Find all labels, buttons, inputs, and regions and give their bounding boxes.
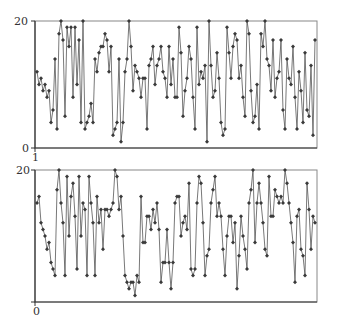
data-point-diamond-icon	[311, 214, 315, 218]
data-point-diamond-icon	[275, 194, 279, 198]
data-point-diamond-icon	[109, 44, 113, 48]
data-point-diamond-icon	[213, 175, 217, 179]
data-point-diamond-icon	[53, 274, 57, 278]
data-point-diamond-icon	[65, 175, 69, 179]
data-point-diamond-icon	[209, 201, 213, 205]
data-point-diamond-icon	[89, 102, 93, 106]
data-point-diamond-icon	[111, 133, 115, 137]
data-point-diamond-icon	[91, 121, 95, 125]
data-point-diamond-icon	[67, 44, 71, 48]
data-point-diamond-icon	[173, 201, 177, 205]
data-point-diamond-icon	[115, 121, 119, 125]
data-point-diamond-icon	[195, 25, 199, 29]
data-point-diamond-icon	[309, 247, 313, 251]
data-point-diamond-icon	[133, 293, 137, 297]
data-point-diamond-icon	[171, 57, 175, 61]
data-point-diamond-icon	[245, 19, 249, 23]
data-point-diamond-icon	[297, 70, 301, 74]
data-point-diamond-icon	[205, 254, 209, 258]
data-point-diamond-icon	[215, 51, 219, 55]
data-point-diamond-icon	[155, 201, 159, 205]
data-point-diamond-icon	[239, 214, 243, 218]
data-point-diamond-icon	[303, 274, 307, 278]
data-point-diamond-icon	[185, 227, 189, 231]
data-line	[37, 170, 315, 295]
data-point-diamond-icon	[249, 89, 253, 93]
data-point-diamond-icon	[139, 95, 143, 99]
data-point-diamond-icon	[169, 83, 173, 87]
data-point-diamond-icon	[253, 114, 257, 118]
data-point-diamond-icon	[275, 76, 279, 80]
bottom-chart-plot	[0, 160, 337, 328]
data-point-diamond-icon	[157, 227, 161, 231]
data-point-diamond-icon	[123, 274, 127, 278]
data-point-diamond-icon	[85, 274, 89, 278]
data-point-diamond-icon	[81, 19, 85, 23]
data-point-diamond-icon	[247, 201, 251, 205]
data-point-diamond-icon	[277, 70, 281, 74]
data-point-diamond-icon	[105, 38, 109, 42]
data-point-diamond-icon	[159, 280, 163, 284]
data-point-diamond-icon	[83, 127, 87, 131]
data-point-diamond-icon	[99, 208, 103, 212]
data-point-diamond-icon	[71, 95, 75, 99]
data-point-diamond-icon	[251, 168, 255, 172]
data-point-diamond-icon	[49, 260, 53, 264]
data-point-diamond-icon	[241, 95, 245, 99]
data-point-diamond-icon	[47, 241, 51, 245]
data-point-diamond-icon	[207, 247, 211, 251]
data-point-diamond-icon	[203, 274, 207, 278]
data-point-diamond-icon	[223, 127, 227, 131]
top-y-min-label: 0	[22, 143, 29, 154]
data-point-diamond-icon	[139, 194, 143, 198]
data-point-diamond-icon	[127, 19, 131, 23]
data-point-diamond-icon	[313, 38, 317, 42]
data-point-diamond-icon	[85, 121, 89, 125]
data-point-diamond-icon	[37, 194, 41, 198]
data-point-diamond-icon	[237, 254, 241, 258]
data-point-diamond-icon	[125, 57, 129, 61]
data-point-diamond-icon	[55, 188, 59, 192]
data-point-diamond-icon	[73, 25, 77, 29]
bottom-line-chart: 20 0	[0, 160, 337, 328]
data-point-diamond-icon	[225, 25, 229, 29]
data-point-diamond-icon	[265, 57, 269, 61]
data-point-diamond-icon	[289, 83, 293, 87]
data-point-diamond-icon	[133, 63, 137, 67]
data-point-diamond-icon	[51, 108, 55, 112]
data-point-diamond-icon	[199, 181, 203, 185]
data-point-diamond-icon	[109, 208, 113, 212]
data-point-diamond-icon	[223, 274, 227, 278]
data-point-diamond-icon	[185, 76, 189, 80]
data-point-diamond-icon	[175, 95, 179, 99]
data-point-diamond-icon	[125, 280, 129, 284]
data-point-diamond-icon	[217, 76, 221, 80]
data-point-diamond-icon	[77, 38, 81, 42]
data-point-diamond-icon	[221, 247, 225, 251]
data-point-diamond-icon	[111, 201, 115, 205]
data-point-diamond-icon	[187, 44, 191, 48]
data-point-diamond-icon	[257, 127, 261, 131]
data-point-diamond-icon	[301, 121, 305, 125]
data-point-diamond-icon	[131, 89, 135, 93]
data-point-diamond-icon	[269, 89, 273, 93]
data-point-diamond-icon	[63, 114, 67, 118]
data-point-diamond-icon	[69, 25, 73, 29]
data-point-diamond-icon	[95, 194, 99, 198]
data-point-diamond-icon	[43, 234, 47, 238]
data-point-diamond-icon	[93, 274, 97, 278]
data-point-diamond-icon	[183, 214, 187, 218]
data-point-diamond-icon	[145, 127, 149, 131]
data-point-diamond-icon	[231, 44, 235, 48]
data-point-diamond-icon	[123, 70, 127, 74]
data-point-diamond-icon	[71, 181, 75, 185]
data-point-diamond-icon	[179, 234, 183, 238]
data-point-diamond-icon	[307, 208, 311, 212]
data-point-diamond-icon	[281, 201, 285, 205]
data-point-diamond-icon	[59, 201, 63, 205]
data-point-diamond-icon	[171, 260, 175, 264]
data-point-diamond-icon	[49, 121, 53, 125]
data-point-diamond-icon	[235, 287, 239, 291]
data-point-diamond-icon	[149, 57, 153, 61]
data-point-diamond-icon	[293, 280, 297, 284]
